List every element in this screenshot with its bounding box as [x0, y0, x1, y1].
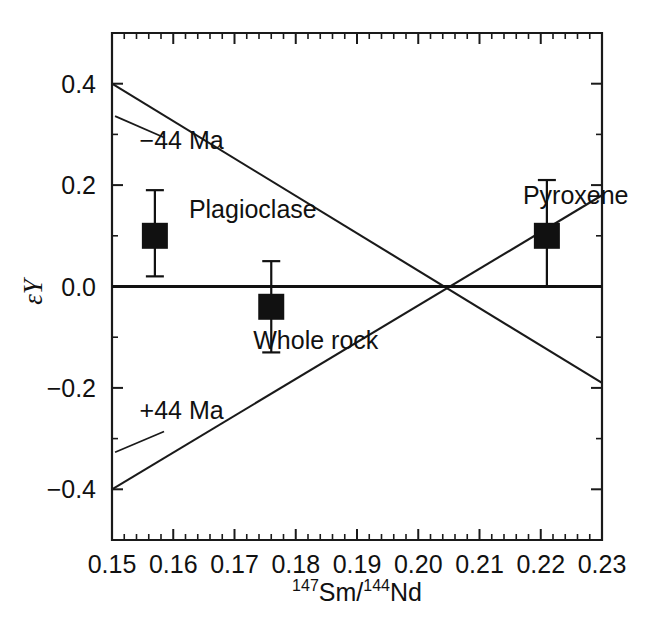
data-marker[interactable]: [142, 223, 168, 249]
y-axis-title: εY: [18, 276, 48, 305]
x-axis-tick-labels: 0.150.160.170.180.190.200.210.220.23: [88, 550, 627, 578]
data-point-label: Plagioclase: [189, 195, 317, 223]
data-point-labels: PlagioclaseWhole rockPyroxene: [189, 181, 629, 354]
x-tick-label: 0.21: [455, 550, 504, 578]
x-tick-label: 0.17: [210, 550, 259, 578]
data-point-label: Pyroxene: [523, 181, 629, 209]
x-axis-title: 147Sm/144Nd: [292, 577, 422, 606]
leader-line-plus-44-Ma: [115, 432, 164, 453]
plot-canvas: 0.150.160.170.180.190.200.210.220.23 −0.…: [0, 0, 647, 633]
y-tick-label: 0.0: [61, 273, 96, 301]
x-tick-label: 0.23: [578, 550, 627, 578]
x-tick-label: 0.15: [88, 550, 137, 578]
x-tick-label: 0.22: [516, 550, 565, 578]
y-axis-tick-labels: −0.4−0.20.00.20.4: [47, 70, 96, 504]
isochron-figure: 0.150.160.170.180.190.200.210.220.23 −0.…: [0, 0, 647, 633]
y-tick-label: 0.4: [61, 70, 96, 98]
x-tick-label: 0.18: [271, 550, 320, 578]
y-tick-label: 0.2: [61, 171, 96, 199]
x-tick-label: 0.16: [149, 550, 198, 578]
y-tick-label: −0.2: [47, 374, 96, 402]
isochron-annotations: −44 Ma+44 Ma: [140, 126, 224, 425]
data-markers: [142, 223, 560, 320]
data-marker[interactable]: [534, 223, 560, 249]
annotation-minus-44-Ma: −44 Ma: [140, 126, 224, 154]
x-tick-label: 0.19: [333, 550, 382, 578]
data-point-label: Whole rock: [253, 326, 379, 354]
data-marker[interactable]: [258, 294, 284, 320]
y-tick-label: −0.4: [47, 475, 96, 503]
annotation-plus-44-Ma: +44 Ma: [140, 396, 224, 424]
x-tick-label: 0.20: [394, 550, 443, 578]
